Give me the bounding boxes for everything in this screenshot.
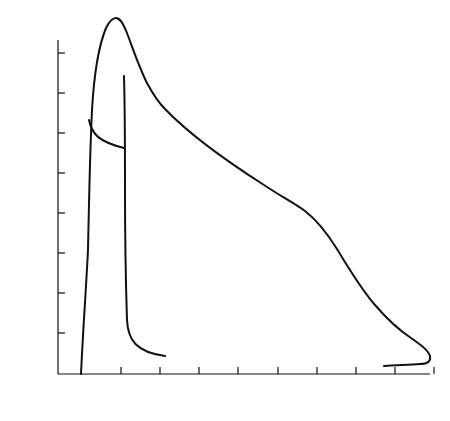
biome-boundaries-real (81, 18, 430, 374)
biome-figure-real (0, 0, 450, 421)
divider-20c (124, 76, 165, 356)
envelope (81, 18, 430, 374)
axis-frame-real (58, 40, 434, 374)
rainforest-lower (89, 120, 124, 148)
biome-diagram (0, 0, 450, 421)
